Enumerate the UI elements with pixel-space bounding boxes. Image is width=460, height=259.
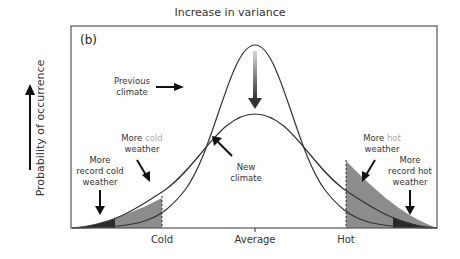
more-hot-suffix: weather: [354, 144, 410, 155]
new-climate-line1: New: [222, 162, 270, 173]
new-climate-label: New climate: [222, 162, 270, 184]
more-hot-weather-label: More hot weather: [354, 133, 410, 155]
record-hot-line1: More: [380, 155, 440, 166]
record-hot-line3: weather: [380, 177, 440, 188]
more-hot-prefix: More: [363, 133, 384, 143]
record-cold-line2: record cold: [72, 166, 128, 177]
record-cold-line3: weather: [72, 177, 128, 188]
up-left-arrow-icon: [212, 136, 232, 156]
down-gradient-arrow-icon: [248, 51, 262, 109]
panel-label: (b): [80, 33, 97, 47]
previous-climate-line2: climate: [108, 87, 156, 98]
more-cold-weather-label: More cold weather: [114, 133, 170, 155]
more-cold-prefix: More: [121, 133, 142, 143]
more-cold-suffix: weather: [114, 144, 170, 155]
record-hot-line2: record hot: [380, 166, 440, 177]
record-hot-weather-label: More record hot weather: [380, 155, 440, 188]
previous-climate-label: Previous climate: [108, 76, 156, 98]
x-tick-cold: Cold: [151, 234, 173, 245]
down-right-arrow-icon: [137, 160, 150, 182]
record-cold-weather-label: More record cold weather: [72, 155, 128, 188]
up-arrow-icon: [25, 84, 35, 170]
down-left-arrow-icon: [362, 160, 375, 182]
right-arrow-icon: [156, 83, 184, 91]
more-cold-accent: cold: [145, 133, 163, 143]
down-arrow-icon: [95, 190, 105, 215]
new-climate-line2: climate: [222, 173, 270, 184]
previous-climate-line1: Previous: [108, 76, 156, 87]
x-tick-hot: Hot: [337, 234, 355, 245]
down-arrow-icon: [405, 190, 415, 215]
more-hot-accent: hot: [387, 133, 401, 143]
x-tick-average: Average: [234, 234, 275, 245]
cold-shade-region: [72, 198, 162, 228]
record-cold-line1: More: [72, 155, 128, 166]
distribution-plot: [0, 0, 460, 259]
